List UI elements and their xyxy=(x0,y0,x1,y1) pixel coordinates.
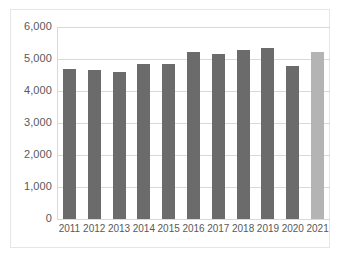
x-axis-tick-label: 2014 xyxy=(131,223,157,235)
plot-area xyxy=(57,27,330,219)
gridline xyxy=(57,27,330,28)
bar xyxy=(261,48,274,219)
bar xyxy=(286,66,299,219)
x-axis-tick-label: 2019 xyxy=(255,223,281,235)
bar xyxy=(311,52,324,219)
x-axis-tick-label: 2015 xyxy=(156,223,182,235)
x-axis-tick-label: 2016 xyxy=(181,223,207,235)
x-axis-tick-label: 2020 xyxy=(280,223,306,235)
x-axis-tick-label: 2011 xyxy=(56,223,82,235)
bar xyxy=(88,70,101,219)
y-axis-tick-label: 2,000 xyxy=(4,149,52,160)
bar xyxy=(113,72,126,219)
gridline xyxy=(57,219,330,220)
bar-chart-figure: 6,0005,0004,0003,0002,0001,0000 20112012… xyxy=(0,0,342,267)
y-axis-tick-label: 3,000 xyxy=(4,117,52,128)
x-axis-tick-label: 2021 xyxy=(305,223,331,235)
y-axis-tick-label: 0 xyxy=(4,213,52,224)
x-axis: 2011201220132014201520162017201820192020… xyxy=(57,223,330,239)
x-axis-tick-label: 2018 xyxy=(230,223,256,235)
y-axis: 6,0005,0004,0003,0002,0001,0000 xyxy=(0,0,52,267)
bar xyxy=(187,52,200,219)
bar xyxy=(63,69,76,219)
y-axis-tick-label: 5,000 xyxy=(4,53,52,64)
bar xyxy=(137,64,150,219)
y-axis-tick-label: 4,000 xyxy=(4,85,52,96)
y-axis-tick-label: 6,000 xyxy=(4,21,52,32)
x-axis-tick-label: 2013 xyxy=(106,223,132,235)
y-axis-tick-label: 1,000 xyxy=(4,181,52,192)
x-axis-tick-label: 2012 xyxy=(81,223,107,235)
x-axis-tick-label: 2017 xyxy=(205,223,231,235)
bar xyxy=(212,54,225,219)
bar xyxy=(237,50,250,219)
bar xyxy=(162,64,175,219)
